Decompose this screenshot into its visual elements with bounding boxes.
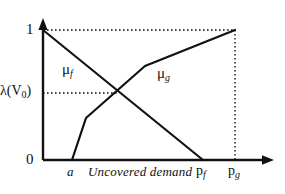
mu-g-prefix: μ (157, 65, 165, 81)
x-tick-label-pg: pg (228, 164, 240, 180)
pg-subscript: g (235, 169, 240, 180)
y-tick-label-zero: 0 (26, 152, 34, 167)
lambda-prefix: λ(V (0, 83, 22, 98)
curve-label-mu-g: μg (157, 66, 170, 83)
x-tick-label-a: a (67, 165, 74, 178)
x-tick-label-pf: pf (196, 164, 206, 180)
pf-subscript: f (203, 169, 206, 180)
mu-f-subscript: f (70, 68, 73, 79)
figure-root: 1 λ(V0) 0 a Uncovered demand pf pg μf μg (0, 0, 285, 194)
pg-prefix: p (228, 163, 235, 178)
curve-mu-g (72, 30, 235, 160)
lambda-suffix: ) (27, 83, 32, 98)
curve-mu-f (43, 30, 203, 160)
y-axis-arrow-icon (38, 18, 47, 30)
x-axis-arrow-icon (262, 155, 274, 165)
y-tick-label-lambda: λ(V0) (0, 84, 31, 100)
mu-f-prefix: μ (62, 61, 70, 77)
x-axis-title: Uncovered demand (88, 165, 192, 178)
y-tick-label-one: 1 (26, 22, 34, 37)
curve-label-mu-f: μf (62, 62, 73, 79)
mu-g-subscript: g (165, 72, 170, 83)
pf-prefix: p (196, 163, 203, 178)
